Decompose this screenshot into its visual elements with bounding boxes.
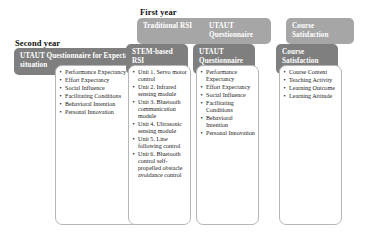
panel-utaut-constructs: Performance Expectancy Effort Expectancy…: [196, 65, 259, 225]
second-year-label: Second year: [15, 38, 60, 48]
list-item: Facilitating Conditions: [200, 100, 256, 114]
list-item: Behavioral Intention: [200, 115, 256, 129]
research-design-diagram: First year Second year UTAUT Questionnai…: [0, 0, 366, 239]
list-item: Unit 3. Bluetooth communication module: [132, 99, 188, 120]
list-item: Unit 6. Bluetooth control self-propelled…: [132, 151, 188, 179]
first-year-label: First year: [140, 7, 177, 17]
list-questionnaire-expectation: Performance Expectancy Effort Expectancy…: [56, 66, 139, 120]
list-item: Performance Expectancy: [200, 69, 256, 83]
chip-utaut-questionnaire-back[interactable]: UTAUT Questionnaire: [203, 18, 271, 44]
chip-course-satisfaction-back[interactable]: Course Satisfaction: [286, 18, 354, 44]
list-item: Unit 5. Line following control: [132, 136, 188, 150]
list-item: Effort Expectancy: [59, 77, 137, 84]
list-item: Learning Attitude: [283, 93, 339, 100]
panel-rsi-units: Unit 1. Servo motor control Unit 2. Infr…: [128, 65, 191, 225]
list-item: Facilitating Conditions: [59, 93, 137, 100]
list-utaut-constructs: Performance Expectancy Effort Expectancy…: [197, 66, 258, 140]
list-item: Social Influence: [59, 85, 137, 92]
list-item: Personal Innovation: [200, 130, 256, 137]
list-item: Personal Innovation: [59, 109, 137, 116]
list-item: Effort Expectancy: [200, 84, 256, 91]
list-rsi-units: Unit 1. Servo motor control Unit 2. Infr…: [129, 66, 190, 182]
chip-traditional-rsi[interactable]: Traditional RSI: [137, 18, 212, 44]
list-item: Unit 2. Infrared sensing module: [132, 84, 188, 98]
list-item: Social Influence: [200, 92, 256, 99]
panel-course-satisfaction: Course Content Teaching Activity Learnin…: [279, 65, 342, 225]
list-item: Unit 4. Ultrasonic sensing module: [132, 121, 188, 135]
list-item: Unit 1. Servo motor control: [132, 69, 188, 83]
list-item: Teaching Activity: [283, 77, 339, 84]
list-course-satisfaction: Course Content Teaching Activity Learnin…: [280, 66, 341, 103]
list-item: Course Content: [283, 69, 339, 76]
list-item: Behavioral Intention: [59, 101, 137, 108]
list-item: Learning Outcome: [283, 85, 339, 92]
